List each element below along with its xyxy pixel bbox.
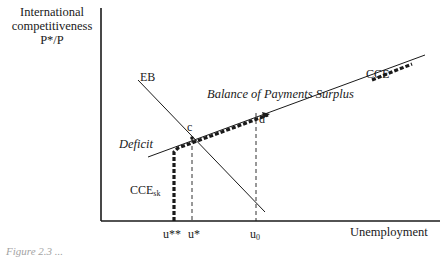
tick-u-double-star: u**: [163, 227, 181, 242]
surplus-label: Balance of Payments Surplus: [207, 87, 354, 102]
cce-sk-label-base: CCE: [130, 183, 153, 197]
y-axis-label-line-3: P*/P: [6, 33, 98, 47]
eb-label: EB: [140, 70, 155, 85]
point-c-marker: [190, 136, 194, 140]
cce-sk-label-sub: sk: [153, 189, 160, 198]
point-c-label: c: [187, 120, 192, 135]
tick-u0: u0: [250, 227, 260, 242]
x-axis-label: Unemployment: [350, 225, 428, 240]
cce-sk-label: CCEsk: [130, 183, 160, 198]
y-axis-label-line-2: competitiveness: [6, 19, 98, 33]
cce-label: CCE: [366, 67, 389, 82]
tick-u-star: u*: [188, 227, 200, 242]
figure-caption: Figure 2.3 ...: [6, 245, 63, 257]
point-d-label: d: [259, 112, 265, 127]
y-axis-label-line-1: International: [6, 5, 98, 19]
deficit-label: Deficit: [119, 137, 153, 152]
tick-u0-sub: 0: [256, 233, 260, 242]
y-axis-label: International competitiveness P*/P: [6, 5, 98, 47]
